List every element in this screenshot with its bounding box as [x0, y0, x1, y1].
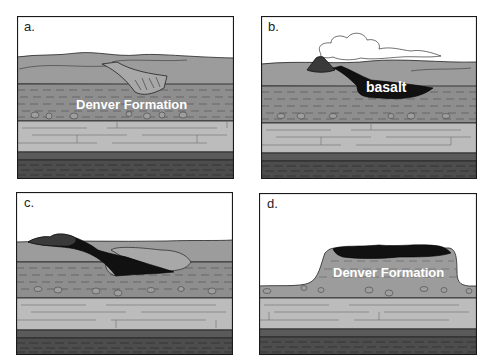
denver-formation-label-d: Denver Formation: [333, 265, 444, 280]
panel-c-diagram: [16, 192, 233, 355]
panel-b-diagram: [261, 16, 477, 179]
panel-b-label: b.: [268, 19, 279, 34]
panel-c: c.: [16, 192, 233, 355]
panel-d: d. Denver Formation: [259, 193, 477, 355]
panel-a-label: a.: [24, 19, 35, 34]
panel-a: a. Denver Formation: [17, 16, 234, 179]
panel-b: b. basalt: [261, 16, 477, 179]
panel-d-label: d.: [267, 196, 278, 211]
basalt-label: basalt: [366, 79, 406, 95]
denver-formation-label-a: Denver Formation: [76, 97, 187, 112]
panel-c-label: c.: [24, 195, 34, 210]
